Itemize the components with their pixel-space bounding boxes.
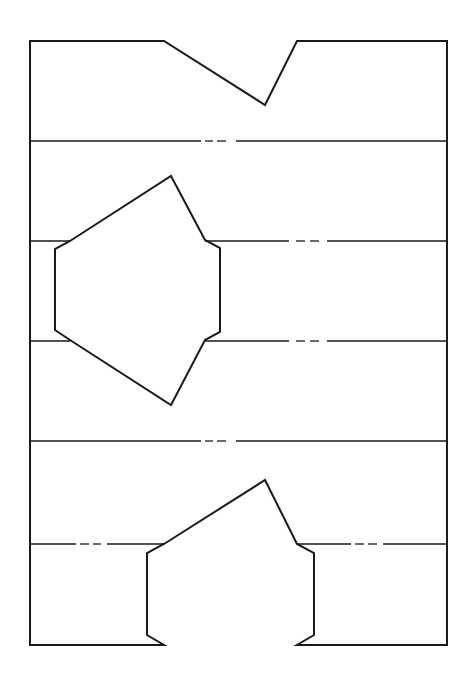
diagram-canvas xyxy=(0,0,473,681)
fold-lines xyxy=(30,141,447,544)
hexagon-cutout xyxy=(55,176,220,405)
sheet-outline xyxy=(30,41,447,645)
